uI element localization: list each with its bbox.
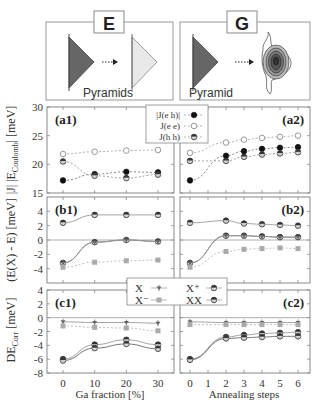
- y-tick-label: -4: [34, 339, 44, 351]
- panel-label-c1: (c1): [55, 295, 76, 310]
- schematic-e-caption: Pyramids: [83, 86, 133, 100]
- legend-coulomb: |J(e h)|J(e e)J(h h): [146, 105, 208, 143]
- x-tick-label: 0: [187, 377, 193, 389]
- schematic-g: G Pyramid: [180, 11, 310, 100]
- x-label-left: Ga fraction [%]: [75, 388, 144, 400]
- panel-b1: -4-2024(b1): [34, 197, 174, 283]
- y-tick-label: -8: [34, 367, 44, 379]
- y-tick-label: 4: [38, 205, 44, 217]
- y-label-a: |J| |ECoulomb| [meV]: [4, 106, 20, 195]
- schematic-e: E Pyramids: [46, 11, 173, 100]
- legend-bc-label: X⁻: [135, 294, 149, 306]
- y-tick-label: 30: [32, 101, 44, 113]
- x-tick-label: 0: [60, 377, 66, 389]
- legend-a-label: J(e e): [160, 121, 180, 131]
- plots: 15202530(a1)(a2)-4-2024(b1)(b2)-8-6-4-20…: [32, 101, 310, 389]
- y-tick-label: 15: [32, 187, 44, 199]
- x-tick-label: 30: [153, 377, 165, 389]
- legend-bc-label: X: [135, 282, 143, 294]
- panel-label-a2: (a2): [282, 112, 304, 127]
- schematic-g-caption: Pyramid: [189, 86, 233, 100]
- y-tick-label: 0: [38, 312, 44, 324]
- legend-complexes: XX⁻X⁺XX: [127, 278, 227, 306]
- x-tick-label: 6: [295, 377, 301, 389]
- legend-bc-label: XX: [186, 294, 202, 306]
- panel-label-a1: (a1): [55, 112, 77, 127]
- panel-b2: (b2): [180, 197, 310, 283]
- legend-bc-label: X⁺: [186, 282, 200, 294]
- y-tick-label: 2: [38, 298, 44, 310]
- y-tick-label: -2: [34, 326, 43, 338]
- figure: E Pyramids G Pyramid 15202530(a1)(a2)-4-…: [0, 0, 320, 408]
- panel-label-b1: (b1): [55, 202, 77, 217]
- schematic-g-label: G: [235, 14, 249, 34]
- y-axis-labels: |J| |ECoulomb| [meV] (E(X) - E) [meV] DE…: [4, 106, 20, 363]
- y-tick-label: 0: [38, 234, 44, 246]
- y-tick-label: -4: [34, 263, 44, 275]
- legend-a-label: J(h h): [159, 132, 180, 142]
- x-label-right: Annealing steps: [209, 388, 280, 400]
- y-label-b: (E(X) - E) [meV]: [4, 198, 18, 282]
- schematic-e-label: E: [103, 14, 115, 34]
- y-tick-label: 20: [32, 158, 44, 170]
- y-tick-label: -2: [34, 248, 43, 260]
- legend-a-label: |J(e h)|: [156, 110, 180, 120]
- panel-label-c2: (c2): [283, 295, 304, 310]
- panel-label-b2: (b2): [282, 202, 304, 217]
- y-tick-label: 2: [38, 220, 44, 232]
- y-tick-label: 4: [38, 284, 44, 296]
- y-tick-label: -6: [34, 353, 44, 365]
- y-tick-label: 25: [32, 130, 44, 142]
- y-label-c: DECorr [meV]: [4, 298, 20, 363]
